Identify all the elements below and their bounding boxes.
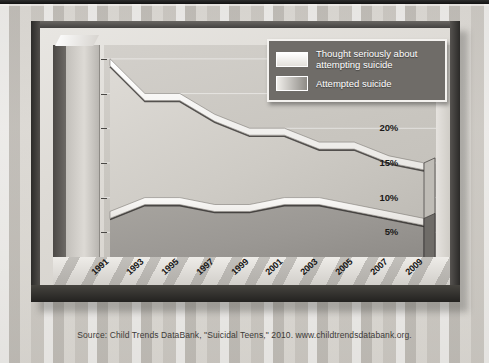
chart-stage: 0%5%10%15%20%25%30% 19911993199519971999… — [40, 28, 450, 285]
value-axis-tick-label: 20% — [364, 123, 398, 133]
value-axis-tick-label: 15% — [364, 158, 398, 168]
floor-texture — [53, 257, 450, 285]
value-axis-top — [55, 35, 99, 46]
value-axis-side — [53, 45, 66, 267]
value-axis-tick-mark — [101, 59, 107, 60]
frame-top-edge — [31, 21, 460, 28]
legend-swatch-icon-attempted — [276, 76, 308, 91]
value-axis-tick-mark — [101, 232, 107, 233]
frame-left-edge — [31, 21, 40, 302]
category-axis-floor: 1991199319951997199920012003200520072009 — [53, 257, 450, 285]
value-axis-tick-label: 5% — [364, 227, 398, 237]
value-axis-tick-label: 10% — [364, 193, 398, 203]
chart-frame: 0%5%10%15%20%25%30% 19911993199519971999… — [31, 21, 460, 302]
legend-label-thought-seriously: Thought seriously about attempting suici… — [316, 48, 417, 70]
frame-right-edge — [450, 21, 460, 302]
value-axis-tick-mark — [101, 128, 107, 129]
value-axis-tick-mark — [101, 94, 107, 95]
chart-figure: 0%5%10%15%20%25%30% 19911993199519971999… — [31, 21, 460, 302]
legend-item-thought-seriously[interactable]: Thought seriously about attempting suici… — [276, 48, 417, 70]
frame-bottom-edge — [31, 285, 460, 302]
legend-swatch-icon-thought-seriously — [276, 52, 308, 67]
top-rule-highlight — [0, 4, 489, 6]
legend-label-attempted: Attempted suicide — [316, 78, 392, 89]
source-note: Source: Child Trends DataBank, "Suicidal… — [0, 330, 489, 340]
value-axis-tick-mark — [101, 198, 107, 199]
value-axis-wall — [53, 35, 103, 267]
value-axis-face — [66, 45, 100, 267]
value-axis-tick-mark — [101, 163, 107, 164]
chart-legend[interactable]: Thought seriously about attempting suici… — [267, 39, 447, 102]
legend-item-attempted[interactable]: Attempted suicide — [276, 76, 392, 91]
page-background: 0%5%10%15%20%25%30% 19911993199519971999… — [0, 0, 489, 363]
